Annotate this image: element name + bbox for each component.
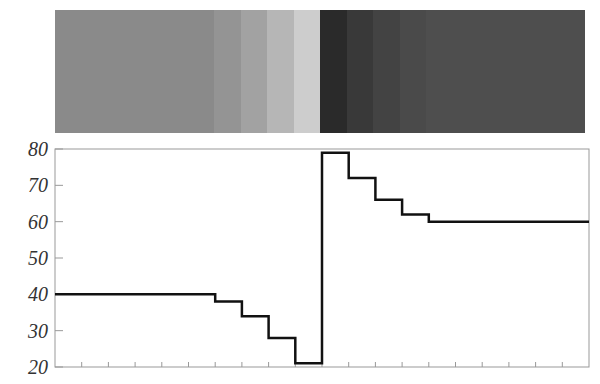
- step-line-series: [55, 153, 589, 364]
- step-chart: 80 70 60 50 40 30 20: [0, 0, 600, 384]
- y-tick-label: 40: [28, 283, 48, 305]
- y-tick-label: 50: [28, 247, 48, 269]
- y-tick-label: 70: [28, 174, 48, 196]
- y-tick-label: 60: [28, 211, 48, 233]
- y-tick-label: 20: [28, 356, 48, 378]
- y-axis-labels: 80 70 60 50 40 30 20: [27, 138, 48, 378]
- y-tick-label: 80: [28, 138, 48, 160]
- y-axis-ticks: [55, 149, 63, 367]
- y-tick-label: 30: [27, 320, 48, 342]
